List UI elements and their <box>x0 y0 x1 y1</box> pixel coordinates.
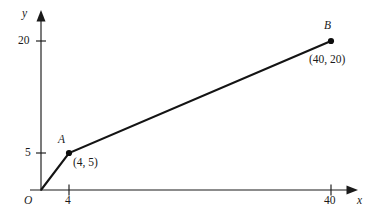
point-b-marker <box>328 38 334 44</box>
origin-label: O <box>24 195 32 207</box>
point-a-coordinate-label: (4, 5) <box>73 157 98 169</box>
x-axis-label: x <box>357 195 362 207</box>
y-tick-label-20: 20 <box>18 35 30 47</box>
y-tick-label-5: 5 <box>25 147 31 159</box>
x-tick-label-40: 40 <box>324 195 336 207</box>
y-axis-label: y <box>22 8 27 20</box>
point-a-marker <box>66 150 72 156</box>
y-axis-arrowhead <box>37 10 46 22</box>
point-b-coordinate-label: (40, 20) <box>309 54 345 66</box>
x-tick-label-4: 4 <box>65 195 71 207</box>
point-a-label: A <box>58 134 65 146</box>
graph-canvas <box>0 0 385 223</box>
point-b-label: B <box>324 20 331 32</box>
graph-figure: y x O 20 5 4 40 A (4, 5) B (40, 20) <box>0 0 385 223</box>
